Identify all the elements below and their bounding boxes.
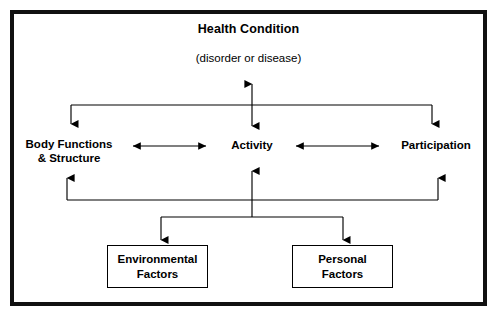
box-personal-factors-label: Personal Factors: [318, 252, 367, 281]
box-environmental-factors-label: Environmental Factors: [118, 252, 198, 281]
node-health-condition: Health Condition: [0, 22, 497, 37]
node-activity: Activity: [202, 139, 302, 153]
node-body-functions-structure: Body Functions & Structure: [8, 138, 130, 165]
box-environmental-factors: Environmental Factors: [107, 245, 208, 288]
icf-diagram: Health Condition (disorder or disease) B…: [0, 0, 497, 318]
node-participation: Participation: [382, 139, 490, 153]
node-health-condition-detail: (disorder or disease): [0, 52, 497, 64]
box-personal-factors: Personal Factors: [292, 245, 393, 288]
